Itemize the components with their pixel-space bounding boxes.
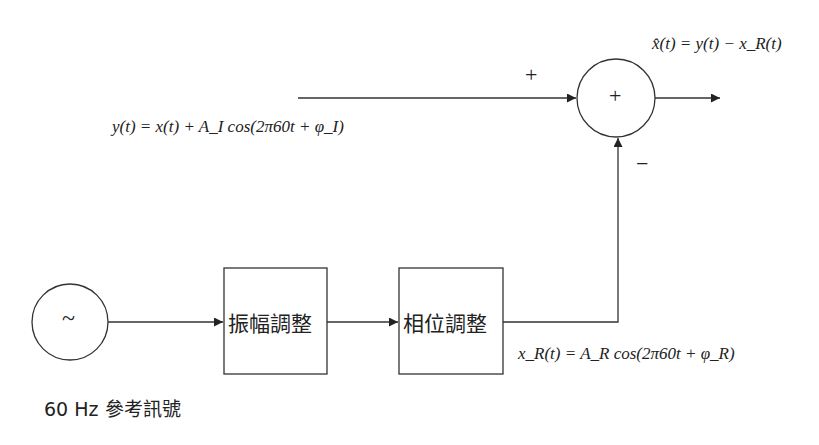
amplitude-adjust-label: 振幅調整 <box>228 307 312 337</box>
diagram-canvas <box>0 0 819 445</box>
phase-adjust-label: 相位調整 <box>403 307 487 337</box>
output-equation: x̂(t) = y(t) − x_R(t) <box>652 34 782 54</box>
reference-feedback-line <box>503 138 618 322</box>
minus-sign-feedback: − <box>636 151 648 177</box>
input-equation: y(t) = x(t) + A_I cos(2π60t + φ_I) <box>112 117 344 137</box>
reference-equation: x_R(t) = A_R cos(2π60t + φ_R) <box>518 344 735 364</box>
summer-plus-symbol: + <box>609 83 621 109</box>
oscillator-tilde-icon: ~ <box>62 305 75 332</box>
oscillator-caption: 60 Hz 參考訊號 <box>44 394 181 421</box>
plus-sign-input: + <box>525 62 537 88</box>
